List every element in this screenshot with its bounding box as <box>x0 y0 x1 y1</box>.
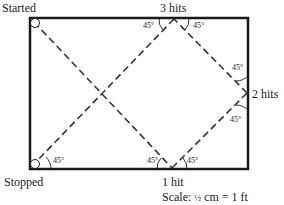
hit1-label: 1 hit <box>162 176 184 188</box>
scale-prefix: Scale: <box>162 190 191 204</box>
angle-hit2-top: 45° <box>232 64 243 72</box>
angle-arcs <box>46 18 248 169</box>
scale-suffix: cm = 1 ft <box>204 190 248 204</box>
scale-label: Scale: ½ cm = 1 ft <box>162 191 248 204</box>
angle-hit3-right: 45° <box>193 22 204 30</box>
stop-label: Stopped <box>4 176 43 188</box>
angle-hit2-bottom: 45° <box>230 116 241 124</box>
stop-ball-icon <box>31 160 40 169</box>
angle-hit1-right: 45° <box>187 157 198 165</box>
hit3-label: 3 hits <box>160 2 186 14</box>
scale-fraction: ½ <box>194 193 201 203</box>
start-ball-icon <box>31 19 40 28</box>
angle-stop: 45° <box>53 157 64 165</box>
start-label: Started <box>2 2 36 14</box>
angle-hit3-left: 45° <box>143 22 154 30</box>
table-border <box>30 18 248 169</box>
ball-path <box>34 19 247 168</box>
hit2-label: 2 hits <box>252 88 278 100</box>
angle-hit1-left: 45° <box>147 157 158 165</box>
